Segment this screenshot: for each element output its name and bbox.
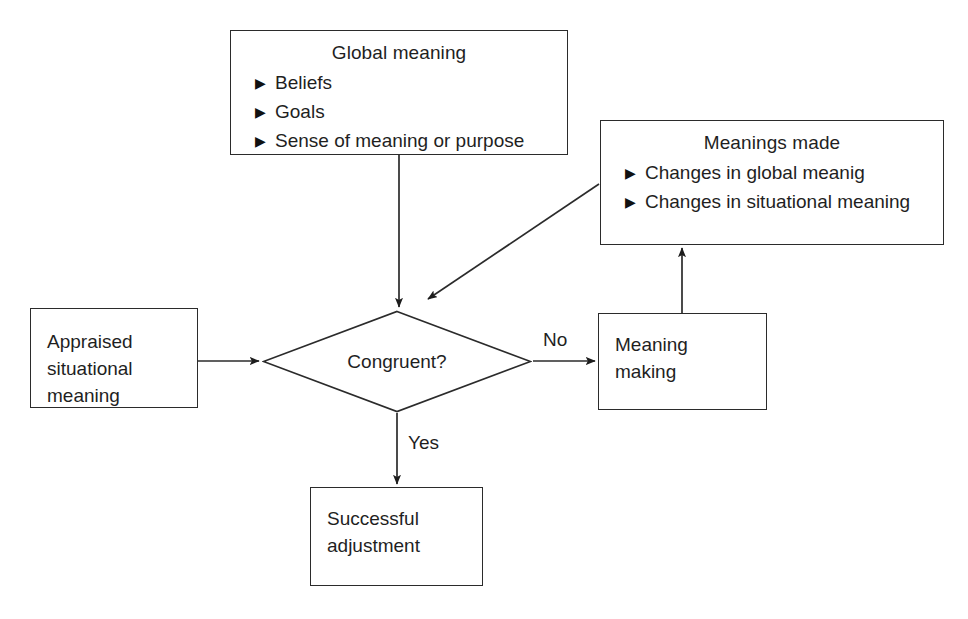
node-congruent-decision[interactable]: Congruent? <box>262 310 532 413</box>
global-meaning-bullet-list: ▶ Beliefs ▶ Goals ▶ Sense of meaning or … <box>241 69 557 156</box>
triangle-bullet-icon: ▶ <box>255 128 266 155</box>
node-appraised-line-3: meaning <box>47 382 197 409</box>
edge-label-no: No <box>543 329 567 351</box>
list-item: ▶ Sense of meaning or purpose <box>255 127 557 156</box>
node-appraised-situational-meaning[interactable]: Appraised situational meaning <box>30 308 198 408</box>
list-item-label: Changes in situational meaning <box>645 188 910 215</box>
node-global-meaning-title: Global meaning <box>241 40 557 65</box>
edge-meanings-made-to-congruent <box>428 184 599 299</box>
node-meanings-made[interactable]: Meanings made ▶ Changes in global meanig… <box>600 120 944 245</box>
node-meaning-making[interactable]: Meaning making <box>598 313 767 410</box>
node-successful-adjustment[interactable]: Successful adjustment <box>310 487 483 586</box>
node-successful-adjustment-line-1: Successful <box>327 505 482 532</box>
list-item-label: Beliefs <box>275 69 332 96</box>
list-item: ▶ Changes in situational meaning <box>625 188 933 217</box>
node-appraised-line-1: Appraised <box>47 328 197 355</box>
node-global-meaning[interactable]: Global meaning ▶ Beliefs ▶ Goals ▶ Sense… <box>230 30 568 155</box>
list-item: ▶ Goals <box>255 98 557 127</box>
node-successful-adjustment-line-2: adjustment <box>327 532 482 559</box>
node-congruent-label: Congruent? <box>262 310 532 413</box>
flowchart-canvas: Global meaning ▶ Beliefs ▶ Goals ▶ Sense… <box>0 0 968 619</box>
edge-label-yes: Yes <box>408 432 439 454</box>
node-meaning-making-line-2: making <box>615 358 766 385</box>
triangle-bullet-icon: ▶ <box>255 70 266 97</box>
triangle-bullet-icon: ▶ <box>625 189 636 216</box>
meanings-made-bullet-list: ▶ Changes in global meanig ▶ Changes in … <box>611 159 933 217</box>
list-item-label: Goals <box>275 98 325 125</box>
triangle-bullet-icon: ▶ <box>625 160 636 187</box>
list-item-label: Changes in global meanig <box>645 159 865 186</box>
node-meanings-made-title: Meanings made <box>611 130 933 155</box>
node-appraised-line-2: situational <box>47 355 197 382</box>
list-item: ▶ Changes in global meanig <box>625 159 933 188</box>
list-item: ▶ Beliefs <box>255 69 557 98</box>
triangle-bullet-icon: ▶ <box>255 99 266 126</box>
list-item-label: Sense of meaning or purpose <box>275 127 524 154</box>
node-meaning-making-line-1: Meaning <box>615 331 766 358</box>
